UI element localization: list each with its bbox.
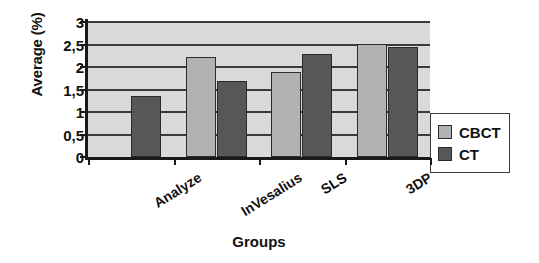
x-axis-tick-mark: [430, 158, 432, 165]
x-axis-tick-mark: [345, 158, 347, 165]
bar-3dp-ct: [388, 47, 418, 157]
legend-label: CBCT: [459, 125, 501, 140]
bar-sls-cbct: [271, 72, 301, 158]
y-axis-tick-label: 0: [36, 150, 84, 165]
legend-swatch-ct: [438, 147, 452, 161]
y-axis-tick-mark: [80, 66, 88, 68]
gridline: [88, 21, 430, 23]
x-axis-tick-mark: [259, 158, 261, 165]
y-axis-tick-label: 3: [36, 15, 84, 30]
bar-chart-figure: Average (%) 00,511,522,53 AnalyzeInVesal…: [0, 0, 539, 263]
y-axis-tick-label: 1: [36, 105, 84, 120]
y-axis-tick-mark: [80, 134, 88, 136]
chart-legend: CBCTCT: [430, 113, 510, 173]
x-axis-title: Groups: [88, 233, 430, 250]
legend-label: CT: [459, 147, 479, 162]
y-axis-tick-mark: [80, 44, 88, 46]
x-axis-category-3dp: 3DP: [403, 169, 435, 197]
y-axis-tick-label: 1,5: [36, 82, 84, 97]
legend-item-cbct: CBCT: [438, 121, 503, 143]
bar-analyze-ct: [131, 96, 161, 157]
bar-invesalius-ct: [217, 81, 247, 157]
y-axis-tick-label: 2,5: [36, 37, 84, 52]
x-axis-tick-mark: [174, 158, 176, 165]
x-axis-tick-mark: [88, 158, 90, 165]
bar-invesalius-cbct: [186, 57, 216, 157]
y-axis-tick-mark: [80, 156, 88, 158]
legend-swatch-cbct: [438, 125, 452, 139]
y-axis-tick-mark: [80, 111, 88, 113]
bar-sls-ct: [302, 54, 332, 158]
y-axis-tick-label: 0,5: [36, 127, 84, 142]
y-axis-tick-label: 2: [36, 60, 84, 75]
x-axis-category-sls: SLS: [318, 169, 350, 197]
y-axis-tick-labels: 00,511,522,53: [36, 0, 84, 263]
legend-item-ct: CT: [438, 143, 503, 165]
x-axis-line: [85, 157, 430, 160]
y-axis-tick-mark: [80, 21, 88, 23]
bar-3dp-cbct: [357, 44, 387, 157]
y-axis-tick-mark: [80, 89, 88, 91]
plot-area: [88, 22, 430, 157]
x-axis-category-invesalius: InVesalius: [238, 169, 305, 219]
x-axis-category-analyze: Analyze: [151, 169, 204, 211]
